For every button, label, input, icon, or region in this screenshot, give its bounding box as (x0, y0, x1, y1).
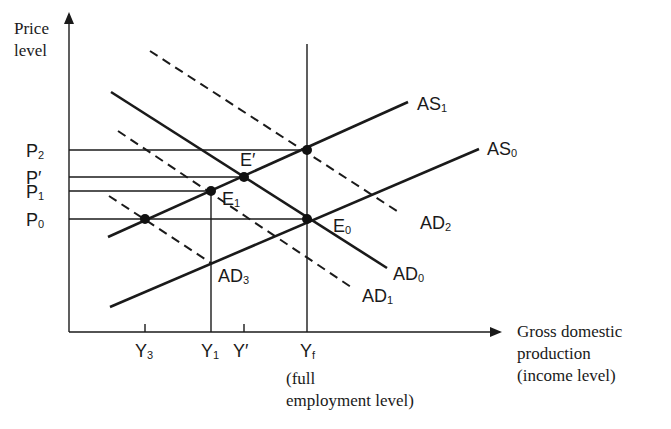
x-axis-label-line2: production (517, 344, 591, 363)
equilibrium-point-e1 (206, 186, 216, 196)
y-axis-label-line2: level (14, 41, 47, 60)
price-label-p1: P1 (26, 182, 44, 202)
equilibrium-label-eprime: E′ (240, 150, 256, 170)
equilibrium-label-e0: E0 (333, 216, 351, 236)
yf-note-line1: (full (286, 369, 316, 388)
curve-ad0 (111, 92, 387, 268)
equilibrium-label-e1: E1 (222, 189, 240, 209)
curve-ad1 (118, 131, 351, 287)
income-label-y3: Y3 (135, 341, 153, 361)
curve-label-ad2: AD2 (420, 213, 451, 233)
equilibrium-point-y3-p0 (140, 214, 150, 224)
ad-as-diagram: Price level Gross domestic production (i… (0, 0, 671, 429)
yf-note-line2: employment level) (286, 391, 414, 410)
curve-ad2 (150, 51, 400, 213)
curve-label-ad0: AD0 (393, 264, 424, 284)
income-label-y1: Y1 (201, 341, 219, 361)
income-label-yf: Yf (300, 341, 316, 361)
equilibrium-point-e0 (302, 214, 312, 224)
equilibrium-point-eprime (239, 172, 249, 182)
equilibrium-point-yf-p2 (302, 145, 312, 155)
curve-label-as0: AS0 (487, 139, 517, 159)
price-label-p0: P0 (26, 210, 44, 230)
x-axis-label-line3: (income level) (517, 366, 616, 385)
curve-as1 (108, 102, 408, 237)
x-axis-label-line1: Gross domestic (517, 322, 623, 341)
y-axis-label-line1: Price (14, 19, 49, 38)
income-label-yprime: Y′ (233, 341, 249, 361)
curve-label-ad1: AD1 (362, 286, 393, 306)
price-label-p2: P2 (26, 141, 44, 161)
curve-label-as1: AS1 (417, 94, 447, 114)
curve-label-ad3: AD3 (218, 266, 249, 286)
